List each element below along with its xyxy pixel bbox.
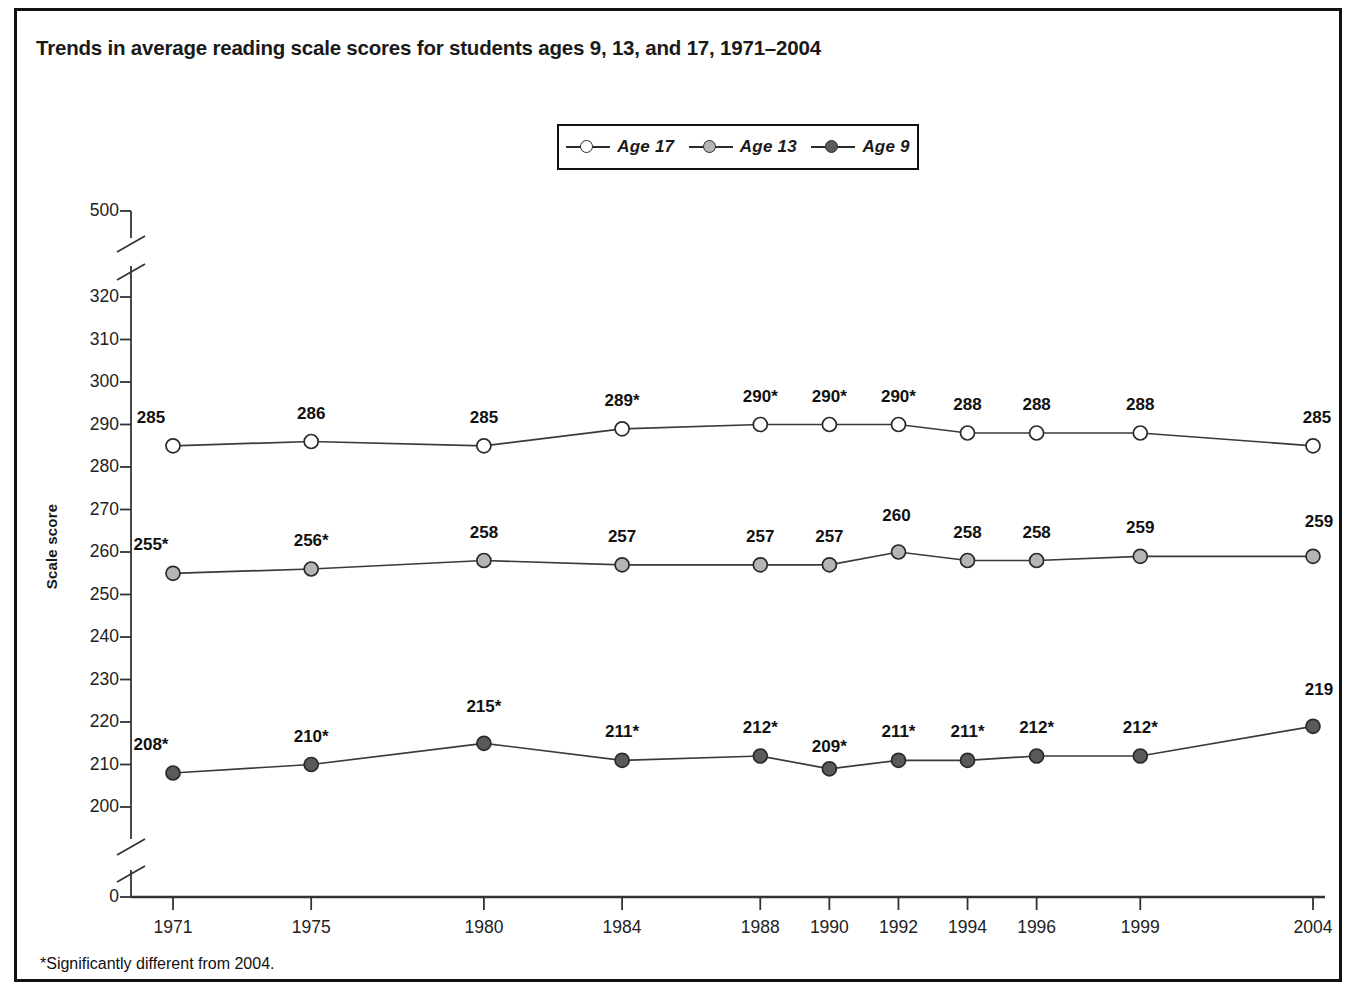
- data-point[interactable]: [304, 435, 318, 449]
- x-tick-label: 1992: [858, 917, 938, 938]
- data-label: 257: [725, 527, 795, 547]
- y-tick-label: 0: [63, 886, 119, 907]
- x-tick-label: 1988: [720, 917, 800, 938]
- x-tick-label: 1984: [582, 917, 662, 938]
- data-label: 215*: [449, 697, 519, 717]
- data-label: 259: [1105, 518, 1175, 538]
- x-tick-label: 1971: [133, 917, 213, 938]
- data-label: 258: [933, 523, 1003, 543]
- y-tick-label: 500: [63, 200, 119, 221]
- data-label: 209*: [794, 737, 864, 757]
- data-point[interactable]: [304, 758, 318, 772]
- x-tick-label: 1990: [789, 917, 869, 938]
- data-label: 257: [794, 527, 864, 547]
- data-point[interactable]: [166, 439, 180, 453]
- data-label: 257: [587, 527, 657, 547]
- data-point[interactable]: [892, 753, 906, 767]
- data-label: 212*: [1002, 718, 1072, 738]
- data-point[interactable]: [304, 562, 318, 576]
- y-tick-label: 210: [63, 754, 119, 775]
- data-label: 288: [1105, 395, 1175, 415]
- data-point[interactable]: [615, 422, 629, 436]
- data-label: 285: [1282, 408, 1352, 428]
- data-point[interactable]: [1306, 549, 1320, 563]
- data-point[interactable]: [615, 558, 629, 572]
- data-label: 212*: [1105, 718, 1175, 738]
- data-point[interactable]: [961, 753, 975, 767]
- plot-area: [0, 0, 1352, 989]
- data-label: 285: [116, 408, 186, 428]
- data-label: 260: [861, 506, 931, 526]
- data-label: 256*: [276, 531, 346, 551]
- data-label: 211*: [863, 722, 933, 742]
- data-point[interactable]: [477, 736, 491, 750]
- data-label: 212*: [725, 718, 795, 738]
- data-point[interactable]: [822, 558, 836, 572]
- data-point[interactable]: [1030, 554, 1044, 568]
- x-tick-label: 2004: [1273, 917, 1352, 938]
- data-point[interactable]: [166, 566, 180, 580]
- data-label: 290*: [794, 387, 864, 407]
- x-tick-label: 1999: [1100, 917, 1180, 938]
- data-point[interactable]: [822, 418, 836, 432]
- data-point[interactable]: [477, 554, 491, 568]
- y-tick-label: 320: [63, 286, 119, 307]
- data-label: 258: [449, 523, 519, 543]
- data-point[interactable]: [822, 762, 836, 776]
- data-point[interactable]: [1030, 426, 1044, 440]
- y-tick-label: 280: [63, 456, 119, 477]
- data-point[interactable]: [1133, 549, 1147, 563]
- y-tick-label: 240: [63, 626, 119, 647]
- chart-figure: Trends in average reading scale scores f…: [0, 0, 1352, 989]
- data-point[interactable]: [892, 545, 906, 559]
- x-tick-label: 1975: [271, 917, 351, 938]
- data-label: 286: [276, 404, 346, 424]
- y-tick-label: 270: [63, 499, 119, 520]
- footnote: *Significantly different from 2004.: [40, 955, 275, 973]
- data-point[interactable]: [615, 753, 629, 767]
- x-tick-label: 1994: [928, 917, 1008, 938]
- data-point[interactable]: [1306, 719, 1320, 733]
- data-point[interactable]: [892, 418, 906, 432]
- data-label: 210*: [276, 727, 346, 747]
- data-label: 259: [1284, 512, 1352, 532]
- y-tick-label: 220: [63, 711, 119, 732]
- data-point[interactable]: [1030, 749, 1044, 763]
- data-label: 290*: [725, 387, 795, 407]
- data-point[interactable]: [1133, 426, 1147, 440]
- data-point[interactable]: [961, 426, 975, 440]
- y-tick-label: 200: [63, 796, 119, 817]
- data-point[interactable]: [961, 554, 975, 568]
- y-tick-label: 310: [63, 329, 119, 350]
- y-tick-label: 230: [63, 669, 119, 690]
- data-label: 288: [1002, 395, 1072, 415]
- data-point[interactable]: [1306, 439, 1320, 453]
- y-tick-label: 260: [63, 541, 119, 562]
- data-point[interactable]: [166, 766, 180, 780]
- data-label: 211*: [933, 722, 1003, 742]
- x-tick-label: 1980: [444, 917, 524, 938]
- y-tick-label: 300: [63, 371, 119, 392]
- y-tick-label: 250: [63, 584, 119, 605]
- data-label: 219: [1284, 680, 1352, 700]
- data-label: 208*: [116, 735, 186, 755]
- data-point[interactable]: [1133, 749, 1147, 763]
- y-tick-label: 290: [63, 414, 119, 435]
- data-label: 288: [933, 395, 1003, 415]
- data-point[interactable]: [477, 439, 491, 453]
- data-label: 289*: [587, 391, 657, 411]
- x-tick-label: 1996: [997, 917, 1077, 938]
- data-label: 258: [1002, 523, 1072, 543]
- data-point[interactable]: [753, 749, 767, 763]
- data-label: 285: [449, 408, 519, 428]
- data-label: 255*: [116, 535, 186, 555]
- data-label: 290*: [863, 387, 933, 407]
- data-label: 211*: [587, 722, 657, 742]
- data-point[interactable]: [753, 558, 767, 572]
- data-point[interactable]: [753, 418, 767, 432]
